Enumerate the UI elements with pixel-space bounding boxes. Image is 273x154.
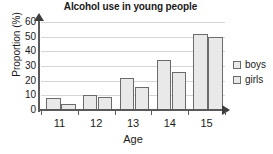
x-axis-tick-label-11: 11: [44, 117, 74, 129]
bar-boys-12: [83, 95, 98, 110]
x-axis-title: Age: [41, 133, 225, 145]
legend-swatch-icon: [233, 61, 241, 69]
x-axis-tick-label-13: 13: [118, 117, 148, 129]
x-axis-tick: [115, 111, 116, 115]
y-axis-tick-label: 10: [16, 90, 36, 100]
legend-item-boys[interactable]: boys: [233, 57, 273, 72]
legend-item-girls[interactable]: girls: [233, 72, 273, 87]
y-axis-tick-labels: 0102030405060: [14, 0, 36, 154]
y-axis-tick-label: 60: [16, 17, 36, 27]
x-axis-arrow-icon: [222, 105, 230, 115]
chart-figure: Alcohol use in young people Proportion (…: [0, 0, 273, 154]
x-axis-tick: [225, 111, 226, 115]
bar-girls-15: [208, 37, 223, 110]
gridline: [41, 22, 225, 23]
y-axis-tick-label: 50: [16, 32, 36, 42]
legend-label: girls: [245, 74, 263, 85]
y-axis-tick-label: 20: [16, 76, 36, 86]
x-axis-tick-label-12: 12: [81, 117, 111, 129]
bar-boys-13: [120, 78, 135, 110]
x-axis-tick: [188, 111, 189, 115]
x-axis-tick-label-14: 14: [155, 117, 185, 129]
y-axis-tick-label: 30: [16, 61, 36, 71]
y-axis-tick-label: 40: [16, 46, 36, 56]
bar-girls-13: [135, 87, 150, 111]
bar-girls-12: [98, 97, 113, 110]
y-axis-line: [38, 19, 40, 112]
y-axis-arrow-icon: [34, 13, 44, 21]
x-axis-tick-label-15: 15: [192, 117, 222, 129]
x-axis-line: [39, 109, 223, 111]
legend-swatch-icon: [233, 76, 241, 84]
x-axis-tick: [41, 111, 42, 115]
bar-boys-14: [157, 60, 172, 110]
x-axis-tick: [151, 111, 152, 115]
bar-boys-15: [193, 34, 208, 110]
chart-legend: boysgirls: [233, 57, 273, 87]
chart-title: Alcohol use in young people: [38, 1, 223, 12]
legend-label: boys: [245, 59, 266, 70]
bar-girls-14: [172, 72, 187, 110]
x-axis-tick: [78, 111, 79, 115]
plot-area: [41, 22, 228, 110]
y-axis-tick-label: 0: [16, 105, 36, 115]
